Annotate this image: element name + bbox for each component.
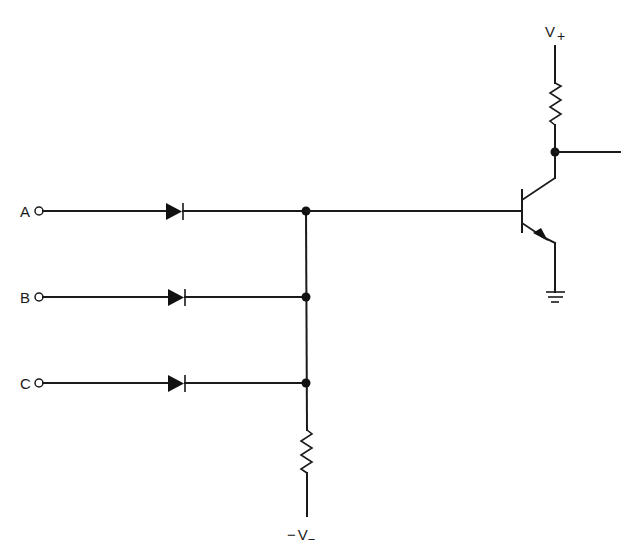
- common-bus: [306, 211, 307, 430]
- input-a: A: [20, 203, 305, 220]
- resistor-r2-icon: [550, 83, 561, 125]
- circuit-diagram: A B C −V−: [0, 0, 636, 554]
- diode-d1-icon: [166, 203, 183, 220]
- junction-b-icon: [302, 293, 311, 302]
- terminal-a-icon: [35, 207, 43, 215]
- terminal-b-icon: [35, 293, 43, 301]
- transistor-q1-icon: [522, 178, 555, 241]
- supply-negative-label: −V−: [287, 526, 315, 547]
- resistor-r1-icon: [301, 430, 312, 473]
- terminal-c-icon: [35, 379, 43, 387]
- ground-icon: [546, 292, 565, 302]
- input-b: B: [20, 289, 306, 306]
- emitter-lead: [543, 237, 555, 243]
- input-label-b: B: [20, 289, 30, 306]
- diode-d2-icon: [168, 289, 185, 306]
- supply-positive-label: V+: [545, 23, 565, 44]
- diode-d3-icon: [168, 375, 185, 392]
- junction-c-icon: [302, 379, 311, 388]
- input-label-c: C: [20, 375, 31, 392]
- input-c: C: [20, 375, 306, 392]
- input-label-a: A: [20, 203, 30, 220]
